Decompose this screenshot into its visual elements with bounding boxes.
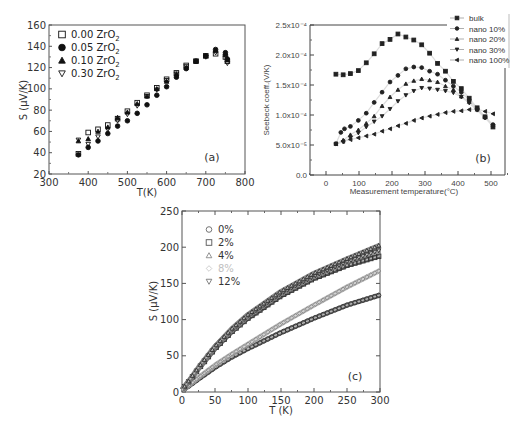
- y-tick-label: 120: [27, 62, 46, 73]
- data-point: [428, 51, 432, 55]
- legend-entry: nano 20%: [469, 35, 505, 44]
- legend-entry: nano 10%: [469, 25, 505, 34]
- data-point: [451, 80, 455, 84]
- data-point: [412, 65, 416, 69]
- data-point: [86, 130, 91, 135]
- data-point: [164, 84, 169, 89]
- data-point: [451, 91, 455, 94]
- x-tick-label: 600: [157, 177, 176, 188]
- data-point: [412, 79, 416, 82]
- data-point: [388, 80, 392, 84]
- data-point: [356, 119, 360, 123]
- data-point: [451, 88, 455, 91]
- data-point: [467, 108, 470, 112]
- data-point: [420, 86, 424, 89]
- x-tick-label: 0: [324, 179, 329, 188]
- legend-marker-icon: [206, 266, 212, 272]
- data-point: [459, 109, 462, 113]
- data-point: [404, 122, 407, 126]
- x-tick-label: 0: [179, 395, 185, 406]
- data-point: [380, 129, 383, 133]
- data-point: [420, 77, 424, 80]
- y-tick-label: 60: [33, 126, 46, 137]
- data-point: [349, 72, 353, 76]
- legend-entry: nano 100%: [469, 56, 509, 65]
- legend-entry: nano 30%: [469, 46, 505, 55]
- y-tick-label: 100: [160, 314, 179, 325]
- data-point: [483, 110, 486, 114]
- y-tick-label: 80: [33, 105, 46, 116]
- data-point: [341, 73, 345, 77]
- y-tick-label: 0.0: [296, 171, 308, 180]
- data-point: [115, 124, 120, 129]
- data-point: [412, 119, 415, 123]
- data-point: [349, 125, 353, 129]
- figure: 20406080100120140160 300400500600700800 …: [0, 0, 529, 436]
- y-tick-label: 5.0x10⁻⁵: [276, 141, 307, 150]
- data-point: [372, 132, 375, 136]
- y-tick-label: 1.0x10⁻⁴: [276, 111, 308, 120]
- data-point: [404, 82, 408, 85]
- data-point: [420, 43, 424, 47]
- x-tick-label: 100: [238, 395, 257, 406]
- legend-entry: 2%: [218, 237, 234, 248]
- data-point: [404, 67, 408, 71]
- legend-marker-icon: [59, 71, 66, 77]
- data-point: [364, 111, 368, 115]
- y-tick-label: 2.0x10⁻⁴: [276, 51, 308, 60]
- y-tick-label: 50: [166, 350, 179, 361]
- y-tick-label: 150: [160, 278, 179, 289]
- legend-marker-icon: [59, 57, 66, 63]
- panel-label-a: (a): [204, 151, 219, 164]
- y-axis-label-a: S (μV/K): [18, 80, 29, 121]
- legend-marker-icon: [455, 16, 459, 20]
- panel-label-c: (c): [348, 370, 363, 383]
- legend-a: 0.00 ZrO20.05 ZrO20.10 ZrO20.30 ZrO2: [59, 29, 120, 82]
- chart-panel-b: 0.05.0x10⁻⁵1.0x10⁻⁴1.5x10⁻⁴2.0x10⁻⁴2.5x1…: [262, 12, 527, 196]
- x-tick-label: 50: [209, 395, 222, 406]
- legend-entry: 8%: [218, 263, 234, 274]
- y-tick-label: 200: [160, 242, 179, 253]
- chart-panel-c: 050100150200250 050100150200250300 0%2%4…: [148, 206, 390, 417]
- data-point: [420, 66, 424, 70]
- x-tick-label: 300: [370, 395, 389, 406]
- chart-panel-a: 20406080100120140160 300400500600700800 …: [18, 20, 255, 199]
- data-point: [155, 93, 160, 98]
- data-point: [364, 134, 367, 138]
- data-point: [436, 88, 440, 91]
- x-axis-label-b: Measurement temperature(°C): [350, 187, 459, 196]
- x-axis-label-c: T (K): [268, 405, 293, 416]
- legend-marker-icon: [206, 240, 212, 246]
- x-tick-label: 700: [196, 177, 215, 188]
- data-point: [96, 129, 101, 133]
- legend-entry: 12%: [218, 276, 240, 287]
- y-axis-label-b: Seebeck coeff.(V/K): [262, 64, 271, 135]
- x-tick-label: 300: [39, 177, 58, 188]
- y-tick-label: 140: [27, 41, 46, 52]
- x-tick-label: 200: [304, 395, 323, 406]
- data-point: [412, 38, 416, 42]
- y-tick-label: 40: [33, 147, 46, 158]
- y-axis-ticks-b: 0.05.0x10⁻⁵1.0x10⁻⁴1.5x10⁻⁴2.0x10⁻⁴2.5x1…: [276, 21, 314, 180]
- data-point: [396, 32, 400, 36]
- legend-marker-icon: [206, 227, 212, 233]
- data-point: [428, 69, 432, 73]
- data-point: [339, 131, 343, 135]
- y-tick-label: 2.5x10⁻⁴: [276, 21, 308, 30]
- legend-entry: 4%: [218, 250, 234, 261]
- data-point: [380, 90, 384, 94]
- legend-entry: bulk: [469, 14, 485, 23]
- x-tick-label: 250: [337, 395, 356, 406]
- y-axis-label-c: S (μV/K): [148, 281, 159, 322]
- y-tick-label: 250: [160, 206, 179, 217]
- data-point: [135, 111, 140, 116]
- legend-marker-icon: [59, 44, 66, 51]
- data-point: [436, 80, 440, 83]
- data-point: [334, 72, 338, 76]
- data-point: [451, 110, 454, 114]
- data-point: [372, 101, 376, 105]
- legend-entry: 0.00 ZrO2: [71, 29, 120, 43]
- data-point: [444, 69, 448, 73]
- data-point: [436, 113, 439, 117]
- data-point: [380, 42, 384, 46]
